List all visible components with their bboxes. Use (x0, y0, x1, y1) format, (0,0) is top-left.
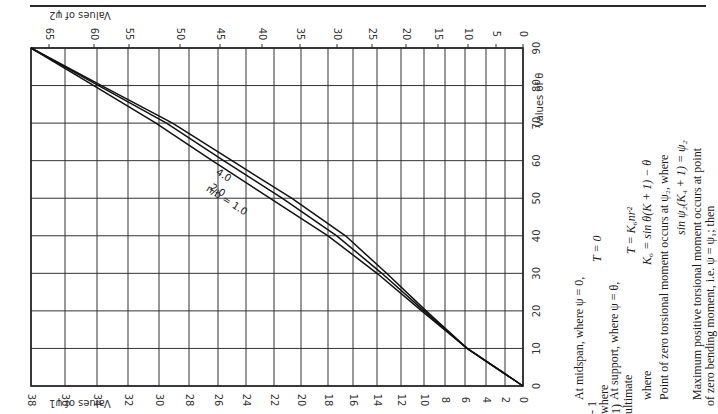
t-zero-eq: T = 0 (590, 235, 605, 262)
plot-frame (31, 48, 523, 386)
psi1-tick-label: 4 (481, 397, 492, 403)
theta-tick-label: 30 (531, 267, 542, 280)
psi2-tick-label: 40 (257, 28, 268, 41)
theta-axis-title: Values of θ (534, 73, 545, 128)
fragment-ultimate: ultimate (621, 375, 636, 414)
psi1-tick-label: 12 (396, 394, 407, 407)
t-support-eq: T = K₆nr² (624, 207, 639, 254)
psi2-tick-label: 15 (433, 28, 444, 41)
psi2-tick-label: 50 (175, 28, 186, 41)
psi1-tick-label: 18 (323, 394, 334, 407)
sin-eq: sin ψ₂(K₄ + 1) = ψ₂ (674, 140, 689, 235)
max-positive-text-2: of zero bending moment, i.e. ψ = ψ₁; the… (703, 206, 718, 406)
psi2-tick-label: 35 (295, 28, 306, 41)
psi1-tick-label: 20 (296, 394, 307, 407)
psi2-tick-label: 65 (44, 28, 55, 41)
theta-tick-label: 60 (531, 154, 542, 167)
support-text: At support, where ψ = θ, (607, 282, 622, 400)
psi2-tick-label: 20 (401, 28, 412, 41)
psi1-tick-label: 16 (348, 394, 359, 407)
psi2-tick-label: 45 (215, 28, 226, 41)
psi2-tick-label: 30 (332, 28, 343, 41)
psi2-axis-title: Values of ψ2 (49, 10, 111, 21)
k6-eq: K₆ = sin θ(K + 1) − θ (640, 160, 655, 265)
theta-tick-label: 50 (531, 192, 542, 205)
psi2-tick-label: 55 (124, 28, 135, 41)
theta-tick-label: 90 (531, 42, 542, 55)
psi1-tick-label: 14 (372, 394, 383, 407)
psi1-tick-label: 32 (123, 394, 134, 407)
psi2-tick-label: 10 (463, 28, 474, 41)
psi2-tick-label: 5 (491, 31, 502, 37)
psi1-tick-label: 8 (440, 397, 451, 403)
curve-1 (31, 48, 523, 386)
psi1-tick-label: 28 (184, 394, 195, 407)
curve-label-2: 4.0 (214, 166, 233, 184)
psi1-tick-label: 10 (419, 394, 430, 407)
psi2-tick-label: 25 (367, 28, 378, 41)
curve-0 (31, 48, 523, 386)
psi1-tick-label: 2 (500, 397, 511, 403)
curve-2 (31, 48, 523, 386)
theta-tick-label: 10 (531, 342, 542, 355)
midspan-text: At midspan, where ψ = 0, (572, 277, 587, 400)
theta-tick-label: 20 (531, 305, 542, 318)
psi1-axis-title: Values of ψ1 (49, 398, 111, 409)
psi1-tick-label: 38 (26, 394, 37, 407)
psi2-tick-label: 60 (89, 28, 100, 41)
psi2-tick-label: 0 (518, 31, 529, 37)
where-label: where (640, 371, 655, 400)
theta-tick-label: 0 (531, 383, 542, 389)
psi1-tick-label: 24 (241, 394, 252, 407)
theta-tick-label: 40 (531, 229, 542, 242)
psi1-tick-label: 30 (154, 394, 165, 407)
psi1-tick-label: 6 (460, 397, 471, 403)
psi1-tick-label: 22 (269, 394, 280, 407)
psi1-tick-label: 26 (213, 394, 224, 407)
psi1-tick-label: 0 (518, 397, 529, 403)
zero-torsion-text: Point of zero torsional moment occurs at… (657, 155, 672, 400)
